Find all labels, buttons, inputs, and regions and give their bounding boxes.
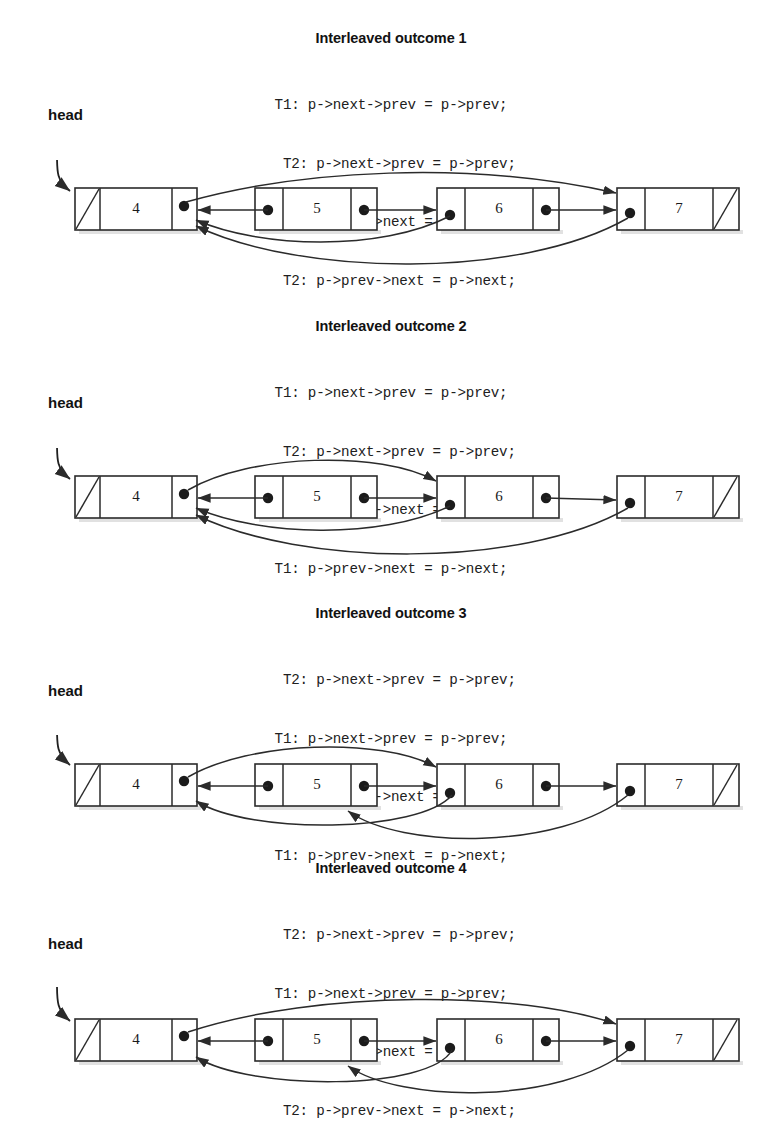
- panel-outcome-1: Interleaved outcome 1 T1: p->next->prev …: [0, 0, 782, 285]
- list-node: 6: [437, 476, 559, 518]
- node-value: 7: [675, 488, 683, 504]
- node-value: 6: [495, 488, 503, 504]
- panel-title: Interleaved outcome 2: [0, 318, 782, 334]
- node-value: 7: [675, 776, 683, 792]
- list-node: 5: [255, 764, 377, 806]
- node-value: 4: [132, 1031, 140, 1047]
- list-node: 6: [437, 188, 559, 230]
- panel-outcome-4: Interleaved outcome 4 T2: p->next->prev …: [0, 835, 782, 1115]
- pointer-dot: [625, 786, 635, 796]
- node-value: 7: [675, 1031, 683, 1047]
- list-node: 7: [617, 188, 739, 230]
- panel-outcome-3: Interleaved outcome 3 T2: p->next->prev …: [0, 565, 782, 835]
- panel-title: Interleaved outcome 3: [0, 605, 782, 621]
- node-value: 6: [495, 776, 503, 792]
- node-value: 6: [495, 1031, 503, 1047]
- list-node: 4: [75, 1019, 197, 1061]
- panel-outcome-2: Interleaved outcome 2 T1: p->next->prev …: [0, 283, 782, 568]
- head-pointer-arrow: [57, 987, 70, 1021]
- node-value: 5: [313, 200, 321, 216]
- pointer-dot: [179, 201, 189, 211]
- list-node: 5: [255, 188, 377, 230]
- head-label: head: [48, 394, 83, 411]
- linked-list-diagram-1: 4 5 6: [0, 160, 782, 290]
- list-node: 7: [617, 1019, 739, 1061]
- node-value: 4: [132, 200, 140, 216]
- list-node: 7: [617, 764, 739, 806]
- node-value: 5: [313, 1031, 321, 1047]
- code-line: T1: p->next->prev = p->prev;: [0, 384, 782, 404]
- node-value: 4: [132, 488, 140, 504]
- pointer-dot: [445, 1043, 455, 1053]
- list-node: 6: [437, 764, 559, 806]
- pointer-dot: [179, 776, 189, 786]
- head-label: head: [48, 106, 83, 123]
- list-node: 4: [75, 476, 197, 518]
- pointer-dot: [625, 498, 635, 508]
- pointer-dot: [179, 1031, 189, 1041]
- linked-list-diagram-4: 4 5 6: [0, 987, 782, 1122]
- pointer-dot: [625, 208, 635, 218]
- list-node: 4: [75, 188, 197, 230]
- code-line: T2: p->next->prev = p->prev;: [0, 671, 782, 691]
- pointer-dot: [445, 500, 455, 510]
- node-value: 7: [675, 200, 683, 216]
- panel-title: Interleaved outcome 1: [0, 30, 782, 46]
- list-node: 4: [75, 764, 197, 806]
- code-line: T1: p->next->prev = p->prev;: [0, 96, 782, 116]
- list-node: 5: [255, 1019, 377, 1061]
- list-node: 6: [437, 1019, 559, 1061]
- node-value: 5: [313, 488, 321, 504]
- list-node: 7: [617, 476, 739, 518]
- head-pointer-arrow: [57, 160, 70, 191]
- node-value: 6: [495, 200, 503, 216]
- head-pointer-arrow: [57, 735, 70, 765]
- code-line: T2: p->next->prev = p->prev;: [0, 926, 782, 946]
- head-pointer-arrow: [57, 448, 70, 479]
- pointer-dot: [625, 1041, 635, 1051]
- node-value: 4: [132, 776, 140, 792]
- list-node: 5: [255, 476, 377, 518]
- node-value: 5: [313, 776, 321, 792]
- pointer-dot: [179, 489, 189, 499]
- head-label: head: [48, 682, 83, 699]
- linked-list-diagram-2: 4 5 6: [0, 448, 782, 578]
- panel-title: Interleaved outcome 4: [0, 860, 782, 876]
- head-label: head: [48, 935, 83, 952]
